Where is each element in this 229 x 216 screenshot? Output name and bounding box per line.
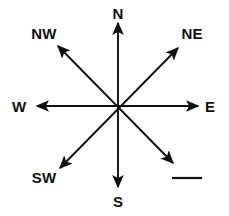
compass-rays-group xyxy=(37,23,198,187)
compass-rose-figure: N NE E S SW W NW xyxy=(0,0,229,216)
label-north: N xyxy=(112,6,123,21)
label-northeast: NE xyxy=(181,26,202,41)
label-south: S xyxy=(113,194,123,209)
ray-northwest-southeast xyxy=(58,46,173,163)
label-west: W xyxy=(12,99,26,114)
label-northwest: NW xyxy=(31,26,56,41)
label-southwest: SW xyxy=(32,170,57,185)
label-east: E xyxy=(205,99,215,114)
